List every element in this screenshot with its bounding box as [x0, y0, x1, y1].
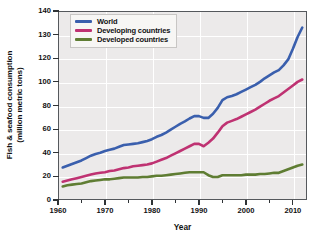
- series-line: [63, 28, 303, 168]
- chart-legend: World Developing countries Developed cou…: [70, 14, 177, 48]
- legend-item-developed-countries: Developed countries: [75, 35, 170, 44]
- legend-label-developing-countries: Developing countries: [97, 26, 170, 35]
- legend-label-developed-countries: Developed countries: [97, 35, 168, 44]
- series-line: [63, 165, 303, 187]
- legend-item-developing-countries: Developing countries: [75, 26, 170, 35]
- fish-seafood-consumption-chart: Fish & seafood consumption (million metr…: [0, 0, 315, 242]
- legend-label-world: World: [97, 17, 117, 26]
- legend-swatch-developed-countries: [75, 38, 92, 41]
- legend-swatch-world: [75, 20, 92, 23]
- series-line: [63, 80, 303, 182]
- legend-item-world: World: [75, 17, 170, 26]
- x-axis-title: Year: [58, 222, 307, 232]
- legend-swatch-developing-countries: [75, 29, 92, 32]
